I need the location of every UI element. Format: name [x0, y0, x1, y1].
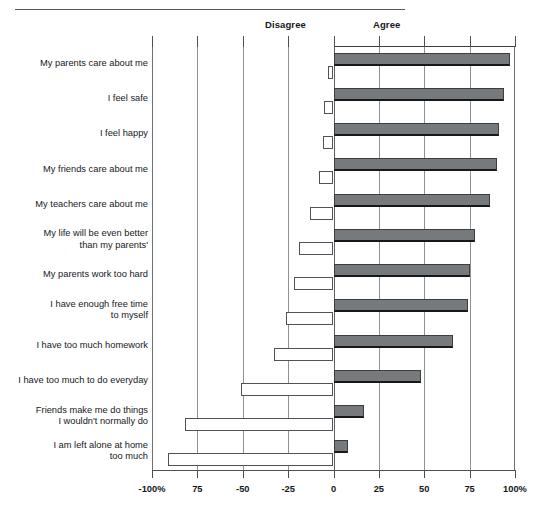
gridline-75 — [470, 47, 471, 470]
bar-agree — [334, 158, 497, 171]
bar-agree — [334, 194, 490, 207]
top-axis-tick-75 — [470, 36, 471, 47]
category-label: I have enough free time to myself — [2, 299, 148, 322]
top-axis-tick--75 — [197, 36, 198, 47]
bar-agree — [334, 88, 505, 101]
category-label: My friends care about me — [2, 164, 148, 175]
axis-tick-label: 75 — [192, 484, 202, 494]
top-axis-tick--100 — [152, 36, 153, 47]
top-axis-tick-100 — [515, 36, 516, 47]
bar-agree — [334, 264, 470, 277]
top-axis — [152, 36, 515, 47]
category-label: I am left alone at home too much — [2, 440, 148, 463]
bottom-axis — [152, 470, 515, 479]
bottom-axis-tick--75 — [197, 470, 198, 478]
axis-tick-label: -25 — [281, 484, 294, 494]
bottom-axis-tick-25 — [379, 470, 380, 478]
bar-agree — [334, 229, 476, 242]
top-axis-tick-0 — [334, 36, 335, 47]
plot-left-border — [152, 47, 153, 470]
bar-agree — [334, 405, 365, 418]
bottom-axis-tick--50 — [243, 470, 244, 478]
bar-agree — [334, 335, 454, 348]
bottom-axis-tick--25 — [288, 470, 289, 478]
category-label: I feel safe — [2, 93, 148, 104]
bar-disagree — [286, 312, 333, 325]
bottom-axis-tick-100 — [515, 470, 516, 478]
category-label: My life will be even better than my pare… — [2, 228, 148, 251]
bar-disagree — [299, 242, 333, 255]
bottom-axis-tick-50 — [424, 470, 425, 478]
bar-disagree — [328, 66, 333, 79]
agree-section-header: Agree — [373, 19, 400, 30]
bar-disagree — [274, 348, 334, 361]
gridline--50 — [243, 47, 244, 470]
plot-area — [152, 47, 515, 470]
axis-tick-label: 0 — [331, 484, 336, 494]
category-label: My parents care about me — [2, 58, 148, 69]
plot-right-border — [514, 47, 515, 470]
top-axis-tick-25 — [379, 36, 380, 47]
top-divider-rule — [15, 9, 405, 10]
category-label: My parents work too hard — [2, 269, 148, 280]
bottom-axis-tick-75 — [470, 470, 471, 478]
axis-tick-label: -100% — [139, 484, 166, 494]
bar-agree — [334, 370, 421, 383]
top-axis-tick-50 — [424, 36, 425, 47]
bar-disagree — [294, 277, 334, 290]
bar-disagree — [319, 171, 334, 184]
disagree-section-header: Disagree — [265, 19, 306, 30]
gridline--25 — [288, 47, 289, 470]
bottom-axis-tick--100 — [152, 470, 153, 478]
category-label-column: My parents care about meI feel safeI fee… — [0, 47, 148, 470]
bar-disagree — [324, 101, 333, 114]
bar-disagree — [323, 136, 334, 149]
category-label: My teachers care about me — [2, 199, 148, 210]
bar-agree — [334, 123, 499, 136]
category-label: Friends make me do things I wouldn't nor… — [2, 405, 148, 428]
top-axis-tick--50 — [243, 36, 244, 47]
bar-disagree — [185, 418, 334, 431]
axis-tick-label: -50 — [236, 484, 249, 494]
category-label: I have too much homework — [2, 340, 148, 351]
bar-disagree — [241, 383, 334, 396]
top-axis-tick--25 — [288, 36, 289, 47]
axis-tick-label: 50 — [419, 484, 429, 494]
bar-agree — [334, 53, 510, 66]
axis-tick-label: 75 — [464, 484, 474, 494]
bar-disagree — [310, 207, 334, 220]
category-label: I feel happy — [2, 128, 148, 139]
axis-tick-label: 100% — [503, 484, 527, 494]
axis-tick-label: 25 — [374, 484, 384, 494]
gridline-50 — [424, 47, 425, 470]
gridline--75 — [197, 47, 198, 470]
bar-agree — [334, 299, 468, 312]
gridline-25 — [379, 47, 380, 470]
category-label: I have too much to do everyday — [2, 375, 148, 386]
bar-agree — [334, 440, 349, 453]
grouped-bar-chart: Disagree Agree My parents care about meI… — [0, 0, 538, 516]
bar-disagree — [168, 453, 333, 466]
bottom-axis-tick-0 — [334, 470, 335, 478]
